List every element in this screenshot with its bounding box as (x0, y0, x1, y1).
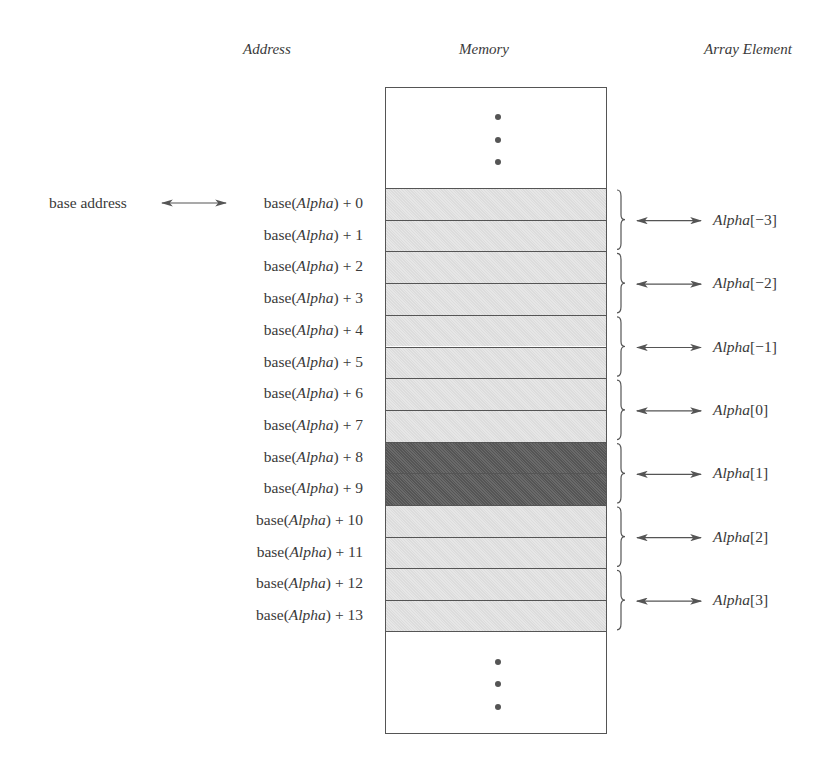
brace-icon (617, 380, 625, 439)
brace-icon (617, 507, 625, 566)
brace-icon (617, 190, 625, 249)
arrows-and-braces (0, 0, 831, 765)
brace-icon (617, 317, 625, 376)
brace-icon (617, 253, 625, 312)
brace-icon (617, 444, 625, 503)
brace-icon (617, 570, 625, 629)
